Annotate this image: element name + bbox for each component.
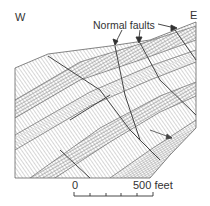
normal-faults-label: Normal faults bbox=[93, 20, 155, 31]
west-label: W bbox=[15, 12, 25, 23]
cross-section-figure: W E Normal faults 0 500 feet bbox=[0, 0, 210, 206]
east-label: E bbox=[190, 10, 197, 21]
scale-start-label: 0 bbox=[72, 180, 78, 191]
scale-bar bbox=[74, 192, 153, 196]
scale-end-label: 500 feet bbox=[133, 180, 173, 191]
